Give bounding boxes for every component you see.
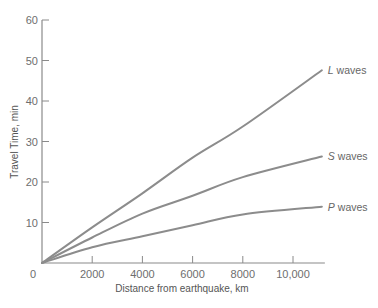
travel-time-chart: 0102030405060200040006000800010,000 L wa… xyxy=(0,0,378,308)
p-waves-label: P waves xyxy=(328,201,368,213)
x-tick-label: 6000 xyxy=(180,268,204,280)
x-tick-label: 8000 xyxy=(231,268,255,280)
y-tick-label: 50 xyxy=(26,55,38,67)
p-waves-line xyxy=(42,207,322,263)
s-waves-label: S waves xyxy=(328,150,368,162)
y-tick-label: 0 xyxy=(30,268,36,280)
y-tick-label: 10 xyxy=(26,217,38,229)
y-tick-label: 60 xyxy=(26,14,38,26)
x-tick-label: 4000 xyxy=(130,268,154,280)
series-lines xyxy=(42,70,322,263)
axes: 0102030405060200040006000800010,000 xyxy=(26,14,325,280)
x-tick-label: 10,000 xyxy=(276,268,310,280)
l-waves-label: L waves xyxy=(328,64,367,76)
y-tick-label: 20 xyxy=(26,176,38,188)
x-axis-title: Distance from earthquake, km xyxy=(115,283,248,294)
x-tick-label: 2000 xyxy=(80,268,104,280)
y-tick-label: 30 xyxy=(26,136,38,148)
series-labels: L wavesS wavesP waves xyxy=(328,64,368,212)
y-tick-label: 40 xyxy=(26,95,38,107)
y-axis-title: Travel Time, min xyxy=(9,105,20,179)
